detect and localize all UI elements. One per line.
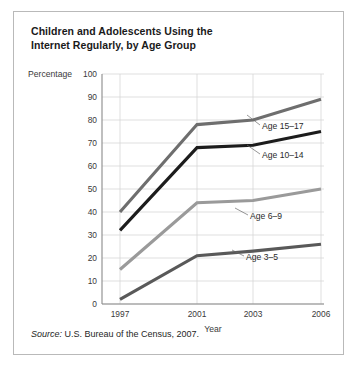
x-axis-tick-labels: 1997200120032006 [111,309,331,319]
series-line-3 [120,244,321,299]
series-label-3: Age 3–5 [246,252,278,262]
source-text: U.S. Bureau of the Census, 2007. [62,329,199,339]
x-tick-2003: 2003 [244,309,263,319]
leader-2 [235,208,248,215]
y-tick-60: 60 [88,161,98,171]
y-tick-30: 30 [88,230,98,240]
series-line-2 [120,189,321,270]
y-axis-tick-labels: 0102030405060708090100 [83,69,97,309]
y-tick-50: 50 [88,184,98,194]
source-label: Source: [31,329,62,339]
series-label-1: Age 10–14 [262,150,304,160]
y-tick-90: 90 [88,92,98,102]
chart-svg: 0102030405060708090100 1997200120032006 … [14,12,345,356]
series-label-0: Age 15–17 [262,121,304,131]
y-tick-40: 40 [88,207,98,217]
x-tick-1997: 1997 [111,309,130,319]
y-tick-10: 10 [88,276,98,286]
series-line-1 [120,132,321,231]
y-tick-20: 20 [88,253,98,263]
y-tick-0: 0 [92,299,97,309]
y-tick-100: 100 [83,69,97,79]
source-note: Source: U.S. Bureau of the Census, 2007. [31,329,199,339]
series-label-2: Age 6–9 [250,211,282,221]
x-tick-2006: 2006 [312,309,331,319]
figure-panel: Children and Adolescents Using the Inter… [13,11,344,355]
x-tick-2001: 2001 [188,309,207,319]
y-tick-70: 70 [88,138,98,148]
y-tick-80: 80 [88,115,98,125]
y-axis-title: Percentage [28,69,72,79]
x-axis-title: Year [204,324,222,334]
line-chart: 0102030405060708090100 1997200120032006 … [14,12,345,356]
